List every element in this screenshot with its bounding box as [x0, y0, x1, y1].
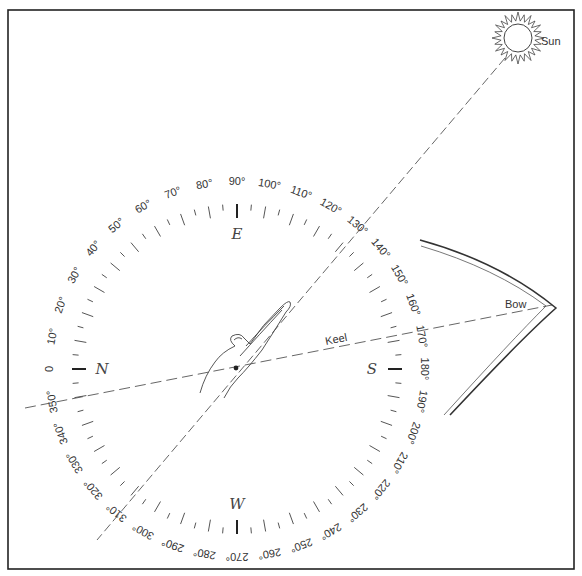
- degree-label: 290°: [160, 536, 185, 555]
- compass-tick: [78, 326, 84, 328]
- compass-tick: [314, 502, 320, 512]
- compass-tick: [370, 287, 380, 293]
- degree-label: 150°: [389, 262, 411, 288]
- compass-tick: [102, 274, 107, 277]
- degree-label: 110°: [289, 183, 314, 202]
- keel-label: Keel: [324, 331, 348, 347]
- pointing-hand-icon: [200, 302, 291, 398]
- compass-tick: [167, 219, 170, 224]
- degree-label: 50°: [106, 215, 126, 235]
- degree-label: 270°: [226, 551, 249, 563]
- degree-label: 280°: [192, 546, 217, 562]
- compass-tick: [131, 243, 139, 252]
- compass-tick: [78, 410, 84, 412]
- compass-tick: [208, 520, 210, 532]
- degree-label: 60°: [133, 197, 153, 216]
- degree-label: 80°: [195, 177, 213, 192]
- compass-diagram: 010°20°30°40°50°60°70°80°90°100°110°120°…: [0, 0, 582, 576]
- compass-tick: [349, 481, 353, 485]
- compass-tick: [381, 436, 386, 439]
- compass-tick: [391, 326, 397, 328]
- compass-tick: [75, 340, 87, 342]
- compass-tick: [111, 263, 120, 271]
- compass-tick: [289, 513, 293, 524]
- compass-tick: [395, 383, 401, 384]
- compass-tick: [194, 210, 196, 216]
- compass-tick: [102, 460, 107, 463]
- compass-tick: [82, 313, 93, 317]
- cardinal-n: N: [94, 360, 109, 378]
- degree-label: 170°: [414, 324, 430, 349]
- compass-tick: [120, 481, 124, 485]
- compass-tick: [381, 299, 386, 302]
- compass-tick: [278, 523, 280, 529]
- compass-tick: [391, 410, 397, 412]
- compass-tick: [251, 527, 252, 533]
- sun-label: Sun: [541, 35, 561, 47]
- degree-label: 0: [43, 366, 55, 372]
- compass-tick: [388, 396, 400, 398]
- degree-label: 250°: [289, 536, 314, 555]
- compass-tick: [73, 355, 79, 356]
- degree-label: 140°: [369, 236, 393, 261]
- compass-tick: [354, 467, 363, 475]
- compass-tick: [181, 214, 185, 225]
- compass-tick: [395, 355, 401, 356]
- compass-tick: [349, 252, 353, 256]
- compass-tick: [370, 446, 380, 452]
- compass-tick: [142, 499, 145, 504]
- compass-tick: [335, 486, 343, 495]
- compass-tick: [381, 421, 392, 425]
- compass-tick: [208, 207, 210, 219]
- degree-label: 20°: [52, 295, 69, 315]
- sun-line: [97, 58, 505, 540]
- degree-label: 180°: [419, 358, 431, 381]
- compass-tick: [314, 226, 320, 236]
- compass-tick: [194, 523, 196, 529]
- degree-label: 350°: [44, 389, 60, 414]
- compass-tick: [264, 207, 266, 219]
- degree-label: 240°: [318, 521, 344, 543]
- degree-label: 220°: [369, 477, 393, 502]
- degree-label: 260°: [257, 546, 282, 562]
- compass-tick: [87, 299, 92, 302]
- degree-label: 210°: [389, 450, 411, 476]
- compass-tick: [155, 226, 161, 236]
- degree-label: 300°: [130, 521, 156, 543]
- compass-tick: [367, 460, 372, 463]
- cardinal-s: S: [367, 360, 377, 378]
- degree-label: 30°: [65, 265, 84, 285]
- cardinal-w: W: [229, 495, 246, 513]
- compass-tick: [94, 446, 104, 452]
- sun-icon: [492, 12, 544, 64]
- compass-tick: [289, 214, 293, 225]
- compass-tick: [304, 219, 307, 224]
- hand-pivot-dot: [234, 366, 239, 371]
- cardinal-e: E: [231, 225, 243, 243]
- compass-tick: [120, 252, 124, 256]
- compass-tick: [354, 263, 363, 271]
- bow-label: Bow: [505, 298, 526, 310]
- compass-tick: [264, 520, 266, 532]
- compass-tick: [223, 205, 224, 211]
- compass-tick: [328, 234, 331, 239]
- compass-tick: [167, 513, 170, 518]
- degree-label: 230°: [345, 501, 370, 525]
- degree-label: 200°: [404, 421, 423, 446]
- compass-tick: [367, 274, 372, 277]
- bow-hull: [420, 240, 556, 415]
- compass-tick: [328, 499, 331, 504]
- compass-tick: [87, 436, 92, 439]
- compass-tick: [223, 527, 224, 533]
- keel-line: [25, 305, 552, 408]
- degree-label: 90°: [229, 175, 246, 187]
- degree-label: 320°: [81, 477, 105, 502]
- degree-label: 310°: [104, 501, 129, 525]
- degree-label: 10°: [45, 327, 60, 345]
- compass-tick: [73, 383, 79, 384]
- compass-tick: [155, 502, 161, 512]
- compass-tick: [181, 513, 185, 524]
- degree-label: 70°: [163, 184, 183, 201]
- degree-label: 120°: [318, 195, 344, 217]
- compass-tick: [381, 313, 392, 317]
